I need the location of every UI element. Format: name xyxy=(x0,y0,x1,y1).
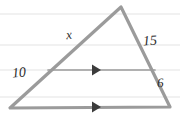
triangle-diagram-svg xyxy=(0,0,180,118)
triangle-outline xyxy=(10,7,170,108)
base-parallel-arrow-icon xyxy=(92,102,101,113)
geometry-figure-canvas: x 15 10 6 xyxy=(0,0,180,118)
ruled-paper-lines xyxy=(0,14,180,97)
side-label-10: 10 xyxy=(11,65,26,80)
triangle-path xyxy=(10,7,170,108)
parallel-arrow-markers xyxy=(92,65,101,113)
inner-parallel-arrow-icon xyxy=(92,65,101,76)
side-label-x: x xyxy=(65,28,72,42)
side-label-6: 6 xyxy=(157,76,164,89)
side-label-15: 15 xyxy=(143,34,158,49)
